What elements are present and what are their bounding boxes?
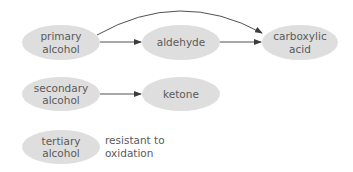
node-label: aldehyde xyxy=(157,36,205,49)
node-primary-alcohol: primary alcohol xyxy=(22,25,100,60)
node-label: secondary alcohol xyxy=(34,82,88,107)
oxidation-diagram: primary alcohol aldehyde carboxylic acid… xyxy=(0,0,353,172)
node-label: ketone xyxy=(163,88,199,101)
node-label: carboxylic acid xyxy=(273,30,326,55)
node-aldehyde: aldehyde xyxy=(142,25,220,60)
node-tertiary-alcohol: tertiary alcohol xyxy=(22,130,100,164)
node-label: primary alcohol xyxy=(40,30,81,55)
node-ketone: ketone xyxy=(142,77,220,111)
node-carboxylic-acid: carboxylic acid xyxy=(262,25,338,60)
node-label: tertiary alcohol xyxy=(42,135,81,160)
tertiary-oxidation-note: resistant to oxidation xyxy=(105,134,165,159)
node-secondary-alcohol: secondary alcohol xyxy=(22,77,100,111)
